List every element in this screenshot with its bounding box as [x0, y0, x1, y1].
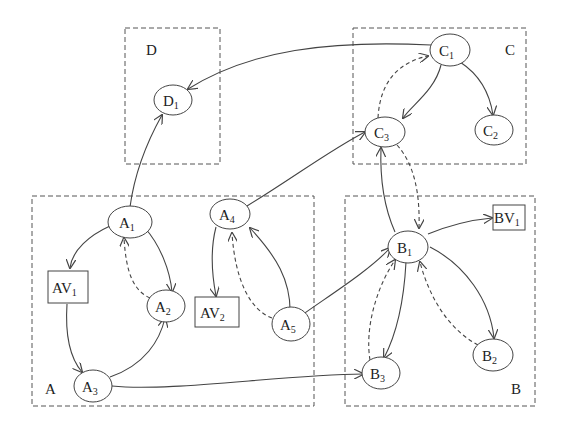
node-d1[interactable]: D1: [154, 85, 192, 115]
edge-c3-b1: [397, 145, 419, 228]
edge-c3-c1: [378, 56, 428, 118]
edge-b3-b1: [369, 260, 395, 360]
edge-c1-c2: [460, 62, 493, 115]
node-av2[interactable]: AV2: [195, 297, 239, 327]
node-a3[interactable]: A3: [74, 370, 112, 402]
node-a2[interactable]: A2: [147, 290, 185, 322]
region-d-label: D: [146, 42, 157, 58]
edge-b1-b2: [430, 247, 494, 338]
node-bv1[interactable]: BV1: [493, 205, 525, 230]
edge-b2-b1: [420, 262, 478, 345]
node-a4[interactable]: A4: [210, 199, 250, 229]
edge-a3-a2: [110, 318, 165, 377]
edge-a4-c3: [247, 132, 365, 206]
edge-c1-c3: [403, 65, 441, 118]
diagram-canvas: D C A B: [0, 0, 562, 430]
edge-av1-a3: [67, 304, 82, 372]
edge-a2-a1: [124, 238, 150, 298]
edge-a3-b3: [112, 374, 363, 387]
edge-b1-b3: [384, 262, 406, 358]
node-b2[interactable]: B2: [473, 339, 513, 371]
node-b1[interactable]: B1: [388, 231, 428, 263]
node-a5[interactable]: A5: [272, 307, 310, 341]
edge-c1-d1: [188, 44, 431, 89]
edge-a1-d1: [130, 115, 162, 207]
node-c2[interactable]: C2: [475, 115, 513, 145]
edge-b1-bv1: [428, 218, 492, 234]
edge-a5-b1: [302, 248, 390, 315]
node-c3[interactable]: C3: [365, 117, 405, 147]
edge-a5-a4-solid: [250, 228, 290, 317]
node-c1[interactable]: C1: [430, 34, 470, 66]
node-a1[interactable]: A1: [108, 206, 152, 238]
edge-a4-av2: [212, 227, 216, 296]
region-b-label: B: [511, 381, 521, 397]
region-c-label: C: [505, 42, 515, 58]
node-b3[interactable]: B3: [362, 357, 400, 389]
edge-b1-c3: [381, 148, 395, 232]
node-av1[interactable]: AV1: [48, 271, 88, 303]
edge-a1-a2: [145, 228, 172, 292]
region-a-label: A: [45, 381, 56, 397]
edge-a1-av1: [70, 226, 110, 268]
